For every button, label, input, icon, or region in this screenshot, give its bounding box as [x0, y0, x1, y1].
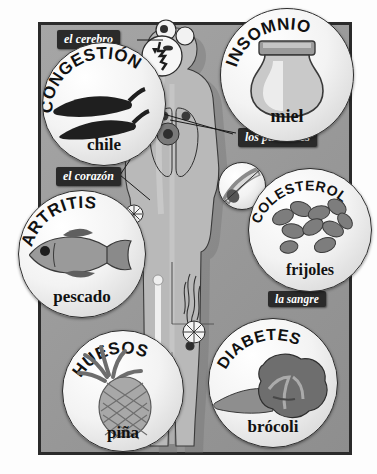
food-caption: piña — [63, 423, 183, 443]
food-caption: chile — [43, 135, 165, 155]
poster-canvas: el cerebro los pulmones el corazón la sa… — [0, 0, 377, 474]
callout-congestion[interactable]: CONGESTIÓN chile — [42, 42, 166, 166]
label-text: el corazón — [63, 169, 114, 183]
callout-artritis[interactable]: ARTRITIS pescado — [18, 190, 146, 318]
food-name: brócoli — [248, 417, 299, 436]
label-la-sangre: la sangre — [268, 291, 326, 307]
food-caption: miel — [221, 106, 353, 127]
food-caption: frijoles — [249, 261, 371, 279]
food-name: pescado — [53, 287, 111, 306]
food-name: piña — [107, 423, 139, 442]
label-el-corazon: el corazón — [56, 167, 121, 186]
joint-marker-knee-right — [183, 321, 205, 343]
callout-huesos[interactable]: HUESOS piña — [62, 330, 184, 452]
callout-colesterol[interactable]: COLESTEROL frijoles — [248, 168, 372, 292]
food-caption: brócoli — [209, 417, 337, 437]
food-caption: pescado — [19, 287, 145, 307]
brain-dot — [160, 25, 168, 33]
label-text: la sangre — [275, 293, 319, 305]
callout-diabetes[interactable]: DIABETES brócoli — [208, 318, 338, 448]
food-name: chile — [87, 135, 121, 154]
callout-insomnio[interactable]: INSOMNIO miel — [220, 8, 354, 142]
food-name: frijoles — [286, 261, 334, 278]
food-name: miel — [271, 106, 304, 126]
